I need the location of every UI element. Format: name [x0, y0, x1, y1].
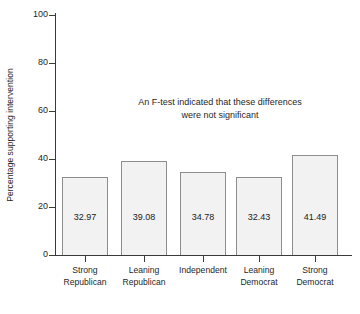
- y-axis-tick-label: 80: [20, 58, 48, 67]
- y-axis-title: Percentage supporting intervention: [3, 15, 17, 255]
- y-axis-tick-label: 100: [20, 10, 48, 19]
- x-axis-tick: [259, 256, 260, 262]
- x-axis-tick: [144, 256, 145, 262]
- x-axis-tick: [85, 256, 86, 262]
- annotation-line-2: were not significant: [96, 109, 344, 122]
- x-axis-category-strong-democrat: Strong Democrat: [278, 265, 352, 288]
- x-axis-tick: [315, 256, 316, 262]
- bar-leaning-republican[interactable]: [121, 161, 167, 256]
- y-axis-tick-label: 40: [20, 154, 48, 163]
- y-axis-tick: [49, 15, 55, 16]
- y-axis-tick: [49, 159, 55, 160]
- significance-annotation: An F-test indicated that these differenc…: [96, 96, 344, 122]
- y-axis-tick-label: 20: [20, 202, 48, 211]
- x-axis-category-line-2: Republican: [107, 277, 181, 289]
- bar-strong-democrat[interactable]: [292, 155, 338, 256]
- annotation-line-1: An F-test indicated that these differenc…: [96, 96, 344, 109]
- x-axis-tick: [203, 256, 204, 262]
- y-axis-tick: [49, 63, 55, 64]
- y-axis-tick-label: 0: [20, 250, 48, 259]
- y-axis-tick-label: 60: [20, 106, 48, 115]
- x-axis-category-line-2: Democrat: [278, 277, 352, 289]
- y-axis-tick: [49, 207, 55, 208]
- x-axis-category-line-1: Strong: [278, 265, 352, 277]
- bar-value-label: 41.49: [278, 212, 352, 222]
- bar-chart: Percentage supporting intervention 100 8…: [0, 0, 360, 314]
- y-axis-tick: [49, 111, 55, 112]
